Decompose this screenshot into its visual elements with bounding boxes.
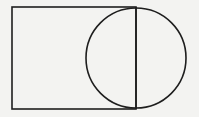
geometry-diagram: [0, 0, 199, 117]
paper-background: [0, 0, 199, 117]
